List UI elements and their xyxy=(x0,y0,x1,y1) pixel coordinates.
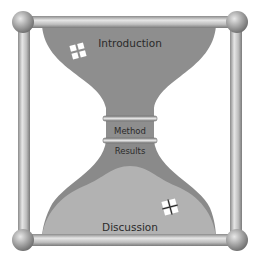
method-top-band xyxy=(103,116,157,121)
method-bottom-band xyxy=(103,138,157,143)
frame-right-bar xyxy=(230,24,242,242)
frame-corner-ball-bottom-right xyxy=(226,229,248,251)
frame-corner-ball-top-left xyxy=(12,11,34,33)
method-label: Method xyxy=(114,126,146,136)
hourglass-diagram: Introduction Method Results Discussion xyxy=(0,0,260,267)
frame-corner-ball-top-right xyxy=(226,11,248,33)
results-label: Results xyxy=(115,146,146,156)
frame-corner-ball-bottom-left xyxy=(12,229,34,251)
introduction-label: Introduction xyxy=(98,37,162,49)
discussion-label: Discussion xyxy=(102,221,158,233)
frame-top-bar xyxy=(24,16,236,28)
frame-bottom-bar xyxy=(24,234,236,246)
frame-left-bar xyxy=(18,24,30,242)
